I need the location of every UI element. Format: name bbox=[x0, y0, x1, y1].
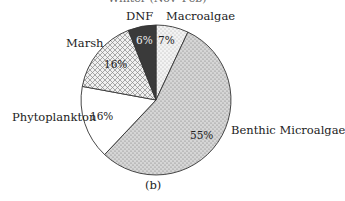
label-macroalgae: Macroalgae bbox=[166, 9, 235, 23]
chart-caption: (b) bbox=[145, 178, 161, 192]
pct-benthic-microalgae: 55% bbox=[190, 129, 213, 141]
label-phytoplankton: Phytoplankton bbox=[12, 110, 96, 124]
label-marsh: Marsh bbox=[66, 36, 103, 50]
label-benthic-microalgae: Benthic Microalgae bbox=[231, 123, 345, 137]
label-dnf: DNF bbox=[126, 9, 153, 23]
pct-dnf: 6% bbox=[136, 34, 153, 46]
pct-marsh: 16% bbox=[104, 58, 127, 70]
pct-phytoplankton: 16% bbox=[90, 110, 113, 122]
pct-macroalgae: 7% bbox=[158, 34, 175, 46]
